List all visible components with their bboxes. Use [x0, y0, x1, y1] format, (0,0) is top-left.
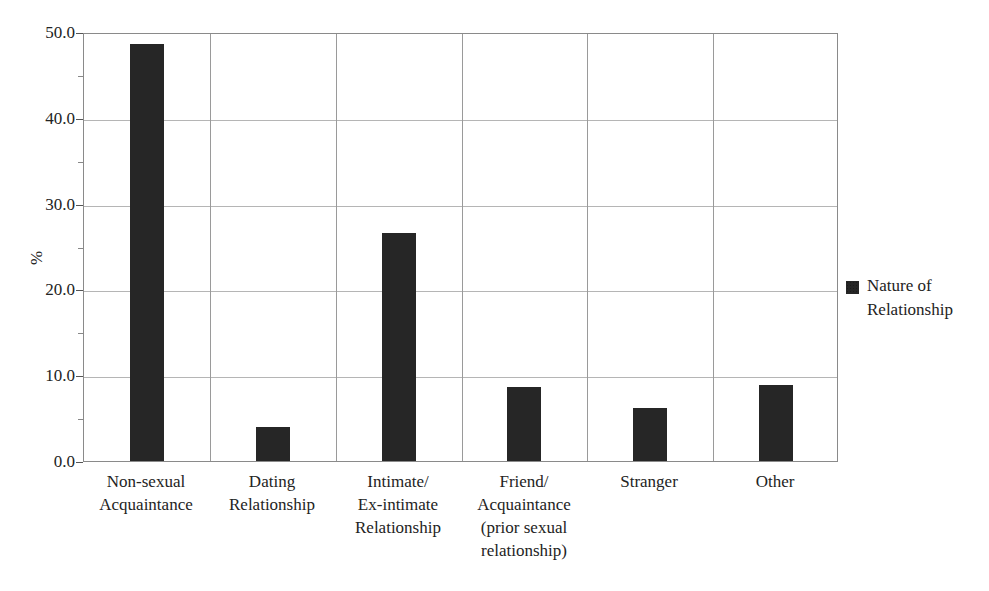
- y-axis-major-tick: [76, 205, 83, 206]
- chart-figure: % 0.010.020.030.040.050.0 Non-sexualAcqu…: [0, 0, 989, 591]
- x-axis-category-label: DatingRelationship: [201, 470, 343, 516]
- y-axis-major-tick: [76, 376, 83, 377]
- bar: [633, 408, 667, 461]
- x-axis-category-line: Acquaintance: [75, 493, 217, 516]
- category-separator: [336, 34, 337, 461]
- x-axis-category-line: Relationship: [327, 516, 469, 539]
- bar: [256, 427, 290, 461]
- category-separator: [713, 34, 714, 461]
- category-separator: [587, 34, 588, 461]
- x-axis-category-line: Friend/: [453, 470, 595, 493]
- y-axis-tick-label: 0.0: [27, 452, 75, 472]
- legend-label: Nature of Relationship: [867, 274, 953, 322]
- y-axis-tick-label: 50.0: [27, 23, 75, 43]
- y-axis-major-tick: [76, 290, 83, 291]
- legend: Nature of Relationship: [846, 274, 953, 322]
- x-axis-labels: Non-sexualAcquaintanceDatingRelationship…: [83, 470, 838, 585]
- gridline: [84, 120, 837, 121]
- gridline: [84, 206, 837, 207]
- gridline: [84, 291, 837, 292]
- bar: [759, 385, 793, 461]
- plot-area: [83, 33, 838, 462]
- y-axis-major-tick: [76, 119, 83, 120]
- y-axis-tick-label: 10.0: [27, 366, 75, 386]
- x-axis-category-label: Non-sexualAcquaintance: [75, 470, 217, 516]
- bar: [382, 233, 416, 461]
- x-axis-category-label: Other: [704, 470, 846, 493]
- caption-remnant: [0, 0, 989, 12]
- y-axis-tick-label: 30.0: [27, 195, 75, 215]
- x-axis-category-label: Friend/Acquaintance(prior sexualrelation…: [453, 470, 595, 562]
- x-axis-category-line: relationship): [453, 539, 595, 562]
- y-axis-title: %: [27, 251, 47, 265]
- x-axis-category-line: Ex-intimate: [327, 493, 469, 516]
- gridline: [84, 377, 837, 378]
- y-axis-major-tick: [76, 33, 83, 34]
- y-axis-tick-label: 20.0: [27, 280, 75, 300]
- x-axis-category-label: Stranger: [578, 470, 720, 493]
- bar: [507, 387, 541, 461]
- x-axis-category-line: Stranger: [578, 470, 720, 493]
- x-axis-category-line: Dating: [201, 470, 343, 493]
- x-axis-category-label: Intimate/Ex-intimateRelationship: [327, 470, 469, 539]
- category-separator: [462, 34, 463, 461]
- category-separator: [210, 34, 211, 461]
- bar: [130, 44, 164, 461]
- x-axis-category-line: Non-sexual: [75, 470, 217, 493]
- y-axis-major-tick: [76, 462, 83, 463]
- x-axis-category-line: (prior sexual: [453, 516, 595, 539]
- y-axis-tick-label: 40.0: [27, 109, 75, 129]
- legend-color-swatch: [846, 281, 859, 294]
- x-axis-category-line: Acquaintance: [453, 493, 595, 516]
- x-axis-category-line: Relationship: [201, 493, 343, 516]
- x-axis-category-line: Other: [704, 470, 846, 493]
- x-axis-category-line: Intimate/: [327, 470, 469, 493]
